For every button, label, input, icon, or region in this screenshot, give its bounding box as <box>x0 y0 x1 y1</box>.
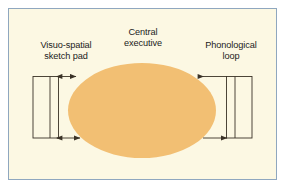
phonological-loop-label: Phonological loop <box>186 40 276 62</box>
phonological-loop-box <box>227 77 253 139</box>
central-executive-label: Central executive <box>98 27 188 49</box>
figure-root: Visuo-spatial sketch pad Central executi… <box>0 0 289 190</box>
central-executive-ellipse <box>68 63 216 158</box>
visuospatial-sketchpad-box <box>33 77 59 139</box>
visuospatial-sketchpad-label: Visuo-spatial sketch pad <box>22 40 110 62</box>
